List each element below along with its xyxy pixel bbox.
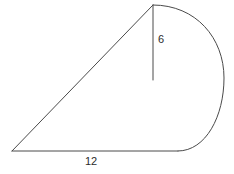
figure-canvas: [0, 0, 234, 174]
height-label: 6: [158, 34, 164, 45]
hypotenuse-line: [12, 5, 153, 151]
semicircle-arc: [153, 5, 224, 151]
geometry-figure: 6 12: [0, 0, 234, 174]
base-label: 12: [85, 156, 97, 167]
